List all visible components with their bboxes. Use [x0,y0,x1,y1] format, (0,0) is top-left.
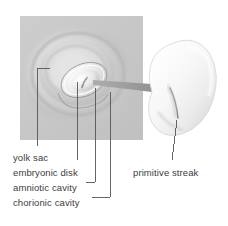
label-yolk-sac: yolk sac [13,152,48,163]
label-amniotic-cavity: amniotic cavity [13,182,77,193]
figure-canvas: yolk sac embryonic disk amniotic cavity … [0,0,228,226]
label-embryonic-disk: embryonic disk [13,167,78,178]
label-chorionic-cavity: chorionic cavity [13,197,80,208]
label-primitive-streak: primitive streak [133,167,198,178]
embryo-3d [149,40,217,135]
